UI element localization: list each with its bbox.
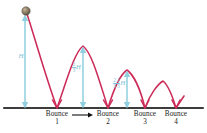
bouncing-ball-figure: H 2 3 H 2 3 2 3 H Bounce 1 Bounce 2 Boun… — [0, 0, 207, 133]
bounce-label-1-word: Bounce — [36, 110, 78, 118]
height-label-2: 2 3 H — [69, 62, 84, 74]
bounce-label-1-number: 1 — [36, 118, 78, 126]
bounce-label-2-word: Bounce — [87, 110, 129, 118]
bounce-label-1: Bounce 1 — [36, 110, 78, 127]
bounce-label-4-number: 4 — [155, 118, 197, 126]
bounce-label-4: Bounce 4 — [155, 110, 197, 127]
bounce-label-2-number: 2 — [87, 118, 129, 126]
height-label-3-symbol: H — [120, 80, 125, 87]
height-label-2-symbol: H — [76, 64, 81, 71]
bounce-label-2: Bounce 2 — [87, 110, 129, 127]
ball-icon — [22, 7, 30, 15]
height-label-1: H — [16, 53, 26, 60]
height-arrow-1 — [22, 15, 28, 109]
bounce-tick-group — [53, 100, 181, 108]
height-label-1-symbol: H — [18, 53, 23, 60]
bounce-label-4-word: Bounce — [155, 110, 197, 118]
bounce-trajectory-curve — [26, 11, 184, 108]
height-label-3: 2 3 2 3 H — [108, 78, 130, 90]
height-arrow-2 — [80, 47, 86, 109]
